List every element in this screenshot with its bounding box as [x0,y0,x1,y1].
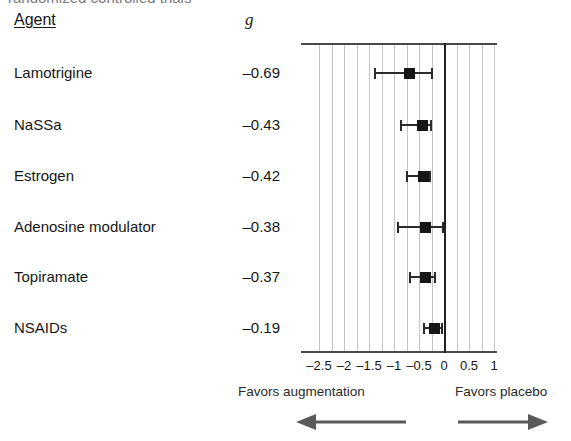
gridline [469,45,470,351]
agent-label: NaSSa [14,116,62,134]
x-axis-tick-label: –1.5 [356,358,381,374]
x-axis-tick-label: –2 [337,358,351,374]
ci-cap-lower [400,120,402,131]
gridline [432,45,433,351]
x-axis-tick-label: 1 [490,358,497,374]
effect-size-marker [420,222,431,233]
gridline [394,45,395,351]
cut-off-header-text: randomized controlled trials [8,0,308,5]
effect-size-value: –0.42 [210,167,280,185]
ci-cap-lower [397,222,399,233]
ci-cap-upper [442,222,444,233]
ci-cap-lower [409,272,411,283]
effect-size-marker [418,171,429,182]
gridline [419,45,420,351]
gridline [382,45,383,351]
effect-size-marker [429,323,440,334]
effect-size-value: –0.37 [210,268,280,286]
caption-favors-augmentation: Favors augmentation [238,383,365,400]
column-header-agent: Agent [14,10,56,30]
gridline [357,45,358,351]
agent-label: Estrogen [14,167,74,185]
effect-size-value: –0.69 [210,64,280,82]
agent-label: NSAIDs [14,319,67,337]
ci-cap-lower [374,68,376,79]
agent-label: Adenosine modulator [14,218,156,236]
x-axis-tick-label: 0 [440,358,447,374]
gridline [494,45,495,351]
zero-reference-line [444,43,446,353]
cut-off-header-sliver: randomized controlled trials [8,0,308,5]
column-header-effect-size: g [245,10,254,30]
gridline [344,45,345,351]
effect-size-value: –0.43 [210,116,280,134]
ci-cap-upper [434,272,436,283]
gridline [319,45,320,351]
x-axis-tick-label: –0.5 [406,358,431,374]
ci-cap-upper [429,171,431,182]
plot-border-bottom [301,351,497,353]
x-axis-tick-label: 0.5 [460,358,478,374]
arrow-left-icon [296,412,408,436]
gridline [369,45,370,351]
caption-favors-placebo: Favors placebo [455,383,547,400]
gridline [332,45,333,351]
effect-size-marker [417,120,428,131]
agent-label: Topiramate [14,268,88,286]
effect-size-marker [404,68,415,79]
effect-size-value: –0.38 [210,218,280,236]
x-axis-tick-label: –1 [387,358,401,374]
ci-cap-upper [430,120,432,131]
gridline [482,45,483,351]
arrow-right-icon [458,412,548,436]
effect-size-value: –0.19 [210,319,280,337]
gridline [457,45,458,351]
forest-plot-area [301,43,497,353]
x-axis-tick-label: –2.5 [306,358,331,374]
ci-cap-lower [406,171,408,182]
ci-cap-lower [423,323,425,334]
effect-size-marker [420,272,431,283]
plot-border-top [301,43,497,45]
ci-cap-upper [441,323,443,334]
ci-cap-upper [431,68,433,79]
gridline [407,45,408,351]
agent-label: Lamotrigine [14,64,92,82]
